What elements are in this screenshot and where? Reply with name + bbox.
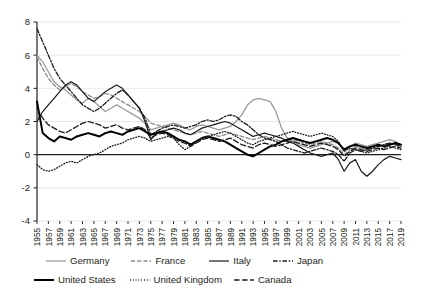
legend-line-swatch-icon [273, 256, 293, 266]
x-axis-tick-label: 1997 [272, 228, 281, 247]
x-axis-tick-label: 1981 [181, 228, 190, 247]
legend-line-swatch-icon [46, 256, 66, 266]
legend-label: United Kingdom [154, 275, 222, 285]
x-axis-tick-label: 2015 [374, 228, 383, 247]
x-axis-tick-label: 2009 [340, 228, 349, 247]
x-axis-tick-label: 1963 [79, 228, 88, 247]
x-axis-tick-label: 1987 [215, 228, 224, 247]
x-axis-tick-label: 1977 [158, 228, 167, 247]
chart-legend-row-1: GermanyFranceItalyJapan [46, 256, 323, 266]
legend-line-swatch-icon [234, 275, 254, 285]
x-axis-tick-label: 2017 [386, 228, 395, 247]
x-axis-tick-label: 1993 [249, 228, 258, 247]
series-line-italy [37, 82, 401, 177]
y-axis-tick-label: -4 [22, 215, 30, 226]
legend-label: Japan [297, 256, 323, 266]
x-axis-tick-label: 1971 [124, 228, 133, 247]
legend-item-italy[interactable]: Italy [209, 256, 251, 266]
x-axis-tick-label: 1955 [33, 228, 42, 247]
x-axis-tick-label: 2007 [329, 228, 338, 247]
y-axis-tick-label: 6 [25, 50, 30, 61]
legend-item-germany[interactable]: Germany [46, 256, 109, 266]
legend-label: Canada [258, 275, 292, 285]
x-axis-tick-label: 2019 [397, 228, 406, 247]
x-axis-tick-label: 2003 [306, 228, 315, 247]
x-axis-tick-label: 1957 [45, 228, 54, 247]
y-axis-tick-label: 8 [25, 16, 30, 27]
x-axis-tick-label: 1989 [227, 228, 236, 247]
x-axis-tick-label: 1961 [67, 228, 76, 247]
legend-item-united-kingdom[interactable]: United Kingdom [130, 275, 222, 285]
x-axis-tick-label: 1991 [238, 228, 247, 247]
x-axis-tick-label: 1965 [90, 228, 99, 247]
x-axis-tick-label: 2001 [295, 228, 304, 247]
x-axis-tick-label: 2005 [318, 228, 327, 247]
legend-label: United States [58, 275, 116, 285]
legend-label: France [155, 256, 185, 266]
x-axis-tick-label: 1995 [261, 228, 270, 247]
chart-legend-row-2: United StatesUnited KingdomCanada [34, 275, 291, 285]
x-axis-tick-label: 1959 [56, 228, 65, 247]
y-axis-tick-label: 4 [25, 83, 30, 94]
x-axis-tick-label: 1975 [147, 228, 156, 247]
y-axis-tick-label: 0 [25, 149, 30, 160]
x-axis-tick-label: 2013 [363, 228, 372, 247]
legend-item-france[interactable]: France [131, 256, 185, 266]
x-axis-tick-label: 1985 [204, 228, 213, 247]
x-axis-tick-label: 1983 [192, 228, 201, 247]
x-axis-tick-label: 1969 [113, 228, 122, 247]
legend-label: Italy [233, 256, 251, 266]
y-axis-tick-label: 2 [25, 116, 30, 127]
line-chart: 86420-2-41955195719591961196319651967196… [0, 0, 422, 302]
x-axis-tick-label: 1999 [283, 228, 292, 247]
x-axis-tick-label: 1979 [170, 228, 179, 247]
x-axis-tick-label: 1967 [101, 228, 110, 247]
legend-label: Germany [70, 256, 109, 266]
legend-item-canada[interactable]: Canada [234, 275, 292, 285]
y-axis-tick-label: -2 [22, 182, 30, 193]
legend-line-swatch-icon [131, 256, 151, 266]
legend-line-swatch-icon [34, 275, 54, 285]
x-axis-tick-label: 1973 [136, 228, 145, 247]
legend-item-united-states[interactable]: United States [34, 275, 116, 285]
legend-line-swatch-icon [209, 256, 229, 266]
legend-line-swatch-icon [130, 275, 150, 285]
x-axis-tick-label: 2011 [352, 228, 361, 246]
series-line-united-kingdom [37, 131, 401, 171]
legend-item-japan[interactable]: Japan [273, 256, 323, 266]
